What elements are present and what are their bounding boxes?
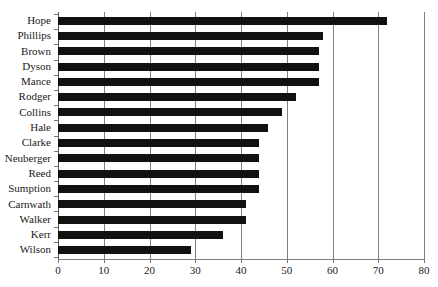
y-axis-tickmark — [54, 105, 58, 106]
y-axis-tickmark — [54, 151, 58, 152]
x-axis-tickmark — [58, 259, 59, 263]
bar — [58, 216, 246, 224]
x-axis-tickmark — [104, 259, 105, 263]
y-axis-tick-label: Wilson — [0, 243, 54, 256]
x-axis-tickmark — [424, 259, 425, 263]
bar-row — [58, 228, 424, 241]
y-axis-tickmark — [54, 29, 58, 30]
bar — [58, 231, 223, 239]
y-axis-tickmark — [54, 257, 58, 258]
bar-row — [58, 106, 424, 119]
x-axis-tickmark — [150, 259, 151, 263]
bar — [58, 32, 323, 40]
y-axis-tick-label: Hale — [0, 121, 54, 134]
x-axis-tick-label: 40 — [236, 264, 247, 276]
bar-row — [58, 90, 424, 103]
y-axis-tickmark — [54, 242, 58, 243]
x-axis-tick-label: 70 — [373, 264, 384, 276]
bar-row — [58, 243, 424, 256]
x-axis-tickmark — [287, 259, 288, 263]
x-axis-tick-label: 50 — [281, 264, 292, 276]
bar-row — [58, 182, 424, 195]
bar — [58, 154, 259, 162]
y-axis-tickmark — [54, 211, 58, 212]
y-axis-tick-label: Sumption — [0, 182, 54, 195]
y-axis-tickmark — [54, 90, 58, 91]
x-axis: 01020304050607080 — [0, 259, 438, 287]
y-axis-tickmark — [54, 181, 58, 182]
y-axis-tick-label: Phillips — [0, 29, 54, 42]
y-axis-labels: Hope Phillips Brown Dyson Mance Rodger C… — [0, 12, 54, 259]
bar — [58, 93, 296, 101]
bar-row — [58, 136, 424, 149]
bar-row — [58, 198, 424, 211]
bar-row — [58, 14, 424, 27]
y-axis-tickmark — [54, 227, 58, 228]
y-axis-tick-label: Reed — [0, 167, 54, 180]
x-axis-tickmark — [333, 259, 334, 263]
y-axis-tick-label: Hope — [0, 14, 54, 27]
y-axis-tick-label: Brown — [0, 45, 54, 58]
bar — [58, 124, 268, 132]
x-axis-tick-label: 80 — [419, 264, 430, 276]
y-axis-tickmark — [54, 196, 58, 197]
y-axis-tick-label: Carnwath — [0, 198, 54, 211]
y-axis-tickmark — [54, 60, 58, 61]
y-axis-tick-label: Collins — [0, 106, 54, 119]
bar-row — [58, 167, 424, 180]
bar — [58, 17, 387, 25]
y-axis-tick-label: Clarke — [0, 136, 54, 149]
y-axis-tick-label: Neuberger — [0, 152, 54, 165]
x-axis-tickmark — [241, 259, 242, 263]
y-axis-tick-label: Rodger — [0, 90, 54, 103]
bar — [58, 170, 259, 178]
x-axis-tick-label: 20 — [144, 264, 155, 276]
plot-area — [58, 12, 424, 259]
x-axis-tickmark — [195, 259, 196, 263]
bar — [58, 108, 282, 116]
bar-row — [58, 152, 424, 165]
bar-row — [58, 29, 424, 42]
y-axis-tick-label: Mance — [0, 75, 54, 88]
bar — [58, 246, 191, 254]
y-axis-tickmark — [54, 44, 58, 45]
bar — [58, 200, 246, 208]
bar-row — [58, 75, 424, 88]
y-axis-tickmark — [54, 14, 58, 15]
bar — [58, 185, 259, 193]
y-axis-tickmark — [54, 120, 58, 121]
y-axis-tickmark — [54, 136, 58, 137]
bar — [58, 139, 259, 147]
gridline — [424, 12, 425, 259]
x-axis-tick-label: 0 — [55, 264, 61, 276]
y-axis-tickmark — [54, 166, 58, 167]
bar-row — [58, 121, 424, 134]
bar-chart: Hope Phillips Brown Dyson Mance Rodger C… — [0, 0, 438, 287]
x-axis-tick-label: 60 — [327, 264, 338, 276]
y-axis-tick-label: Walker — [0, 213, 54, 226]
bar-row — [58, 213, 424, 226]
bar — [58, 78, 319, 86]
y-axis-tick-label: Kerr — [0, 228, 54, 241]
x-axis-tick-label: 30 — [190, 264, 201, 276]
y-axis-tickmark — [54, 75, 58, 76]
bar-row — [58, 45, 424, 58]
bar — [58, 47, 319, 55]
bar-row — [58, 60, 424, 73]
bar — [58, 63, 319, 71]
x-axis-tick-label: 10 — [98, 264, 109, 276]
x-axis-tickmark — [378, 259, 379, 263]
bar-rows — [58, 12, 424, 259]
y-axis-tick-label: Dyson — [0, 60, 54, 73]
